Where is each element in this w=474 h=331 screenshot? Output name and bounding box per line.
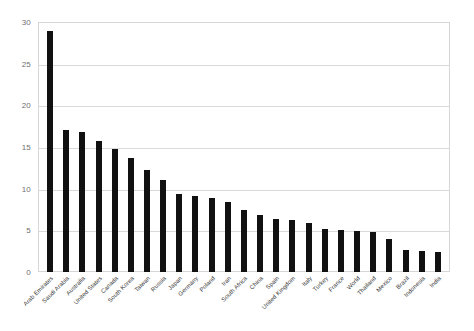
bar-slot	[414, 22, 430, 272]
bar-slot	[90, 22, 106, 272]
bar-chart: 051015202530 Arab EmiratesSaudi ArabiaAu…	[0, 0, 474, 331]
x-label-slot: United States	[90, 273, 106, 331]
bar[interactable]	[338, 230, 344, 273]
bar[interactable]	[289, 220, 295, 272]
bar-slot	[317, 22, 333, 272]
bar[interactable]	[225, 202, 231, 272]
bar[interactable]	[257, 215, 263, 273]
bar[interactable]	[112, 149, 118, 272]
bar[interactable]	[322, 229, 328, 272]
x-label-slot: Thailand	[365, 273, 381, 331]
bar-slot	[268, 22, 284, 272]
y-axis-tick-label: 25	[22, 59, 31, 68]
bar[interactable]	[96, 141, 102, 272]
bar[interactable]	[386, 239, 392, 272]
bar-slot	[58, 22, 74, 272]
bar-slot	[42, 22, 58, 272]
x-label-slot: Italy	[301, 273, 317, 331]
x-label-slot: Brazil	[397, 273, 413, 331]
bar[interactable]	[306, 223, 312, 272]
x-label-slot: Taiwan	[139, 273, 155, 331]
bar[interactable]	[47, 31, 53, 272]
y-axis-tick-label: 10	[22, 184, 31, 193]
bar[interactable]	[419, 251, 425, 272]
bar[interactable]	[63, 130, 69, 272]
x-label-slot: France	[333, 273, 349, 331]
x-label-slot: Iran	[220, 273, 236, 331]
x-label-slot: South Africa	[236, 273, 252, 331]
bar[interactable]	[176, 194, 182, 272]
y-axis-tick-label: 30	[22, 18, 31, 27]
bar[interactable]	[192, 196, 198, 272]
y-axis-tick-label: 20	[22, 101, 31, 110]
bar-slot	[430, 22, 446, 272]
bar[interactable]	[403, 250, 409, 272]
y-axis-tick-label: 15	[22, 143, 31, 152]
bar-slot	[187, 22, 203, 272]
x-label-slot: Indonesia	[414, 273, 430, 331]
x-label-slot: Japan	[171, 273, 187, 331]
bar-slot	[236, 22, 252, 272]
bar-slot	[139, 22, 155, 272]
x-axis-labels: Arab EmiratesSaudi ArabiaAustraliaUnited…	[38, 273, 450, 331]
bar-slot	[397, 22, 413, 272]
x-label-slot: South Korea	[123, 273, 139, 331]
bar-slot	[204, 22, 220, 272]
x-label-slot: Mexico	[381, 273, 397, 331]
bar[interactable]	[79, 132, 85, 272]
bar[interactable]	[128, 158, 134, 272]
bar[interactable]	[273, 219, 279, 272]
bar-slot	[365, 22, 381, 272]
x-axis-tick-label: India	[428, 275, 442, 289]
x-label-slot: India	[430, 273, 446, 331]
bar-slot	[349, 22, 365, 272]
x-label-slot: Poland	[204, 273, 220, 331]
bar[interactable]	[354, 231, 360, 272]
bar-slot	[333, 22, 349, 272]
bar[interactable]	[435, 252, 441, 272]
bar-slot	[381, 22, 397, 272]
y-axis-tick-label: 5	[26, 226, 31, 235]
x-label-slot: Saudi Arabia	[58, 273, 74, 331]
bars-container	[38, 22, 450, 272]
x-label-slot: World	[349, 273, 365, 331]
bar-slot	[123, 22, 139, 272]
x-axis-tick-label: Iran	[220, 275, 232, 287]
x-label-slot: Germany	[187, 273, 203, 331]
bar[interactable]	[241, 210, 247, 272]
bar[interactable]	[144, 170, 150, 273]
x-label-slot: Russia	[155, 273, 171, 331]
bar-slot	[301, 22, 317, 272]
bar[interactable]	[370, 232, 376, 272]
bar-slot	[220, 22, 236, 272]
bar-slot	[107, 22, 123, 272]
x-label-slot: United Kingdom	[284, 273, 300, 331]
bar-slot	[252, 22, 268, 272]
bar-slot	[155, 22, 171, 272]
y-axis-tick-label: 0	[26, 268, 31, 277]
x-label-slot: Turkey	[317, 273, 333, 331]
x-axis-tick-label: Italy	[300, 275, 312, 287]
bar[interactable]	[160, 180, 166, 272]
bar-slot	[284, 22, 300, 272]
y-axis: 051015202530	[0, 22, 36, 272]
bar-slot	[74, 22, 90, 272]
bar[interactable]	[209, 198, 215, 272]
bar-slot	[171, 22, 187, 272]
